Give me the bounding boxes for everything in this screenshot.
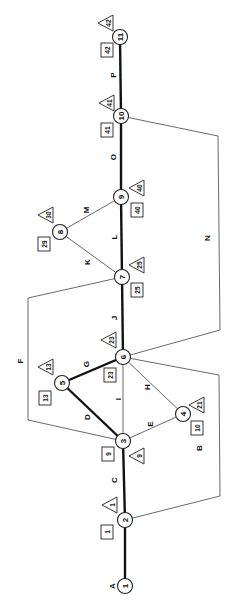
activity-label-c: C [110, 477, 119, 483]
node-number: 3 [119, 438, 128, 443]
activity-b-edge [123, 357, 220, 520]
activity-label-a: A [108, 583, 117, 589]
node-number: 6 [119, 354, 128, 359]
latest-time-triangle-node-6: 23 [101, 332, 116, 348]
earliest-time-box-node-6: 23 [104, 368, 116, 382]
activity-label-n: N [203, 235, 212, 241]
earliest-time-value: 25 [134, 286, 141, 294]
event-node-5: 5 [55, 376, 70, 391]
event-node-7: 7 [115, 270, 130, 285]
latest-time-triangle-node-7: 25 [129, 257, 144, 273]
latest-time-value: 41 [106, 99, 113, 107]
activity-label-i: I [114, 398, 123, 400]
node-number: 10 [117, 111, 126, 120]
latest-time-triangle-node-8: 30 [38, 207, 53, 223]
node-number: 5 [58, 380, 67, 385]
activity-f-edge [28, 277, 123, 441]
activity-d-edge [62, 383, 123, 441]
event-node-11: 11 [113, 30, 128, 45]
latest-time-value: 25 [136, 261, 143, 269]
activity-label-j: J [110, 316, 119, 320]
activity-label-f: F [16, 358, 25, 363]
earliest-time-box-node-4: 10 [191, 421, 203, 435]
event-node-1: 1 [118, 579, 133, 594]
latest-time-triangle-node-3: 9 [129, 448, 144, 464]
node-number: 7 [118, 274, 127, 279]
latest-time-triangle-node-2: 1 [102, 497, 117, 513]
activity-label-o: O [109, 154, 118, 160]
activity-label-d: D [83, 414, 92, 420]
earliest-time-value: 42 [104, 46, 111, 54]
earliest-time-value: 13 [42, 394, 49, 402]
event-node-10: 10 [114, 109, 129, 124]
earliest-time-value: 10 [194, 424, 201, 432]
node-number: 1 [121, 583, 130, 588]
latest-time-value: 9 [136, 454, 143, 458]
earliest-time-box-node-9: 40 [131, 203, 143, 217]
node-number: 9 [117, 194, 126, 199]
activity-m-edge [60, 197, 121, 232]
activity-label-m: M [82, 206, 91, 213]
event-node-4: 4 [176, 407, 191, 422]
network-diagram: ACBDEFIGHJNKLMOP 191013232529404142 1921… [0, 0, 225, 613]
earliest-time-box-node-7: 25 [131, 283, 143, 297]
earliest-time-value: 40 [134, 206, 141, 214]
earliest-time-box-node-5: 13 [39, 391, 51, 405]
event-node-2: 2 [118, 513, 133, 528]
node-number: 2 [121, 517, 130, 522]
activity-label-b: B [195, 445, 204, 451]
latest-time-value: 23 [108, 336, 115, 344]
latest-time-value: 42 [105, 19, 112, 27]
earliest-time-box-node-8: 29 [38, 237, 50, 251]
activity-label-k: K [83, 259, 92, 265]
earliest-time-box-node-10: 41 [101, 123, 113, 137]
node-number: 11 [116, 32, 125, 41]
earliest-time-value: 23 [107, 371, 114, 379]
node-number: 4 [179, 411, 188, 416]
node-number: 8 [56, 229, 65, 234]
earliest-time-value: 29 [41, 240, 48, 248]
earliest-time-box-node-2: 1 [101, 525, 113, 539]
activity-label-l: L [110, 234, 119, 239]
event-node-3: 3 [116, 434, 131, 449]
earliest-time-box-node-11: 42 [101, 43, 113, 57]
activity-h-edge [123, 357, 183, 414]
latest-time-value: 1 [109, 503, 116, 507]
latest-time-triangle-node-4: 21 [189, 397, 204, 413]
activity-p-edge [120, 37, 121, 116]
latest-time-triangle-node-9: 40 [129, 180, 144, 196]
latest-time-value: 13 [45, 363, 52, 371]
activity-label-h: H [143, 384, 152, 390]
latest-time-triangle-node-11: 42 [98, 15, 113, 31]
activity-c-edge [123, 441, 125, 520]
activity-label-e: E [146, 421, 155, 427]
activity-label-g: G [82, 361, 91, 367]
latest-time-triangle-node-5: 13 [38, 359, 53, 375]
event-node-9: 9 [114, 190, 129, 205]
activity-l-edge [121, 197, 122, 277]
event-node-6: 6 [116, 350, 131, 365]
event-node-8: 8 [53, 225, 68, 240]
latest-time-value: 40 [136, 184, 143, 192]
activity-label-p: P [109, 72, 118, 78]
latest-time-triangle-node-10: 41 [99, 95, 114, 111]
earliest-time-box-node-3: 9 [102, 447, 114, 461]
earliest-time-value: 41 [104, 126, 111, 134]
activity-j-edge [122, 277, 123, 357]
earliest-time-value: 9 [105, 452, 112, 456]
latest-time-value: 30 [45, 211, 52, 219]
latest-time-value: 21 [196, 401, 203, 409]
earliest-time-value: 1 [104, 530, 111, 534]
